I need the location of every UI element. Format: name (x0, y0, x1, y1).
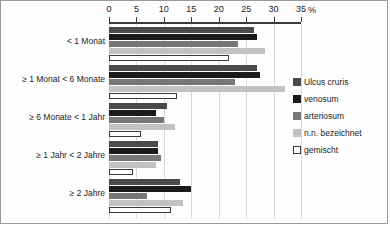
bar (109, 117, 164, 123)
bar (109, 179, 180, 185)
legend-swatch-icon (293, 129, 301, 137)
x-axis-tick (274, 17, 275, 22)
bar (109, 86, 285, 92)
x-axis-tick (246, 17, 247, 22)
category-label: ≥ 2 Jahre (1, 188, 105, 198)
legend-swatch-icon (293, 146, 301, 154)
x-axis-tick-label: 20 (214, 4, 224, 14)
x-axis-tick-label: 10 (159, 4, 169, 14)
bar (109, 93, 177, 99)
legend-swatch-icon (293, 95, 301, 103)
legend-item[interactable]: venosum (293, 90, 387, 107)
x-axis-tick (191, 17, 192, 22)
x-axis-tick (109, 17, 110, 22)
bar (109, 79, 235, 85)
category-label: ≥ 1 Jahr < 2 Jahre (1, 150, 105, 160)
bar-group (109, 103, 301, 138)
bar (109, 131, 141, 137)
x-axis-tick-label: 5 (134, 4, 139, 14)
x-axis-tick (219, 17, 220, 22)
bar (109, 124, 175, 130)
legend-item-label: arteriosum (304, 111, 344, 121)
legend-item[interactable]: Ulcus cruris (293, 73, 387, 90)
bar (109, 148, 158, 154)
bar (109, 162, 156, 168)
legend-item-label: n.n. bezeichnet (304, 128, 362, 138)
x-axis-tick-label: 15 (186, 4, 196, 14)
bar (109, 65, 257, 71)
bar (109, 169, 133, 175)
bar (109, 55, 229, 61)
plot-area (109, 23, 301, 219)
bar-group (109, 27, 301, 62)
legend-swatch-icon (293, 78, 301, 86)
bar-group (109, 141, 301, 176)
bar (109, 34, 257, 40)
bar (109, 141, 158, 147)
legend-item-label: venosum (304, 94, 339, 104)
legend-item-label: Ulcus cruris (304, 77, 348, 87)
x-axis-tick (136, 17, 137, 22)
bar (109, 155, 161, 161)
bar (109, 41, 238, 47)
x-axis-tick-label: 30 (269, 4, 279, 14)
bar (109, 193, 147, 199)
legend-item-label: gemischt (304, 145, 338, 155)
bar-group (109, 179, 301, 214)
legend-item[interactable]: arteriosum (293, 107, 387, 124)
bar (109, 103, 167, 109)
bar (109, 110, 156, 116)
x-axis-tick-label: 25 (241, 4, 251, 14)
bar (109, 27, 254, 33)
legend-item[interactable]: gemischt (293, 141, 387, 158)
x-axis-tick (301, 17, 302, 22)
category-label: ≥ 6 Monate < 1 Jahr (1, 112, 105, 122)
bar (109, 72, 260, 78)
x-axis-tick-label: 0 (106, 4, 111, 14)
bar (109, 48, 265, 54)
category-label: ≥ 1 Monat < 6 Monate (1, 74, 105, 84)
legend-item[interactable]: n.n. bezeichnet (293, 124, 387, 141)
x-axis-tick (164, 17, 165, 22)
bar-group (109, 65, 301, 100)
x-axis-tick-label: 35 (296, 4, 306, 14)
chart-figure: 05101520253035 % < 1 Monat≥ 1 Monat < 6 … (0, 0, 388, 224)
legend: Ulcus crurisvenosumarteriosumn.n. bezeic… (293, 73, 387, 158)
bar (109, 186, 191, 192)
bar (109, 207, 171, 213)
legend-swatch-icon (293, 112, 301, 120)
x-axis-unit-label: % (308, 5, 316, 15)
category-label: < 1 Monat (1, 36, 105, 46)
bar (109, 200, 183, 206)
